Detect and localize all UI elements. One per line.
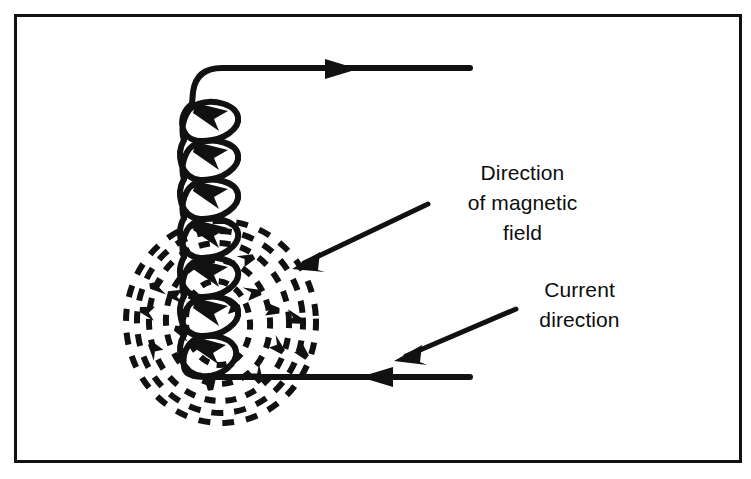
magnetic-field-label-line2: of magnetic (415, 188, 630, 218)
current-direction-label-line1: Current (487, 275, 672, 305)
magnetic-field-label: Direction of magnetic field (415, 158, 630, 248)
magnetic-field-label-line3: field (415, 218, 630, 248)
magnetic-field-label-line1: Direction (415, 158, 630, 188)
figure-border (16, 16, 741, 462)
figure-root: Direction of magnetic field Current dire… (0, 0, 751, 479)
current-direction-label-line2: direction (487, 305, 672, 335)
current-direction-label: Current direction (487, 275, 672, 335)
physics-diagram-canvas (0, 0, 751, 479)
